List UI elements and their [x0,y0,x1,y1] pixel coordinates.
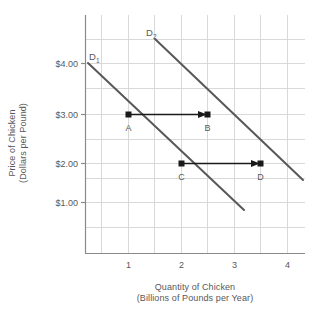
y-tick-label: $4.00 [55,59,78,69]
y-tick-label: $2.00 [55,159,78,169]
demand-curve-d2 [155,39,303,180]
data-point-label-d: D [257,172,264,182]
x-tick-label: 4 [285,260,290,270]
data-point-labels: A B C D [125,123,264,182]
data-point-a [126,112,132,118]
demand-curve-d1 [88,63,244,210]
x-axis-title: Quantity of Chicken (Billions of Pounds … [85,282,305,304]
curve-labels: D1 D2 [89,27,157,64]
data-point-b [205,112,211,118]
curve-label-d2: D2 [146,27,157,40]
x-axis-title-sub: (Billions of Pounds per Year) [85,293,305,304]
demand-shift-chart: $4.00 $3.00 $2.00 $1.00 1 2 3 4 [0,0,314,318]
x-tick-label: 3 [232,260,237,270]
axis-lines [85,15,305,254]
data-point-label-b: B [204,123,210,133]
data-point-label-c: C [178,172,185,182]
curve-label-d2-subscript: 2 [153,33,157,40]
data-point-c [179,161,185,167]
y-tick-marks [81,64,86,203]
y-axis-title: Price of Chicken (Dollars per Pound) [7,78,29,208]
data-point-label-a: A [125,123,131,133]
curve-label-d1: D1 [89,51,100,64]
x-tick-label: 2 [179,260,184,270]
grid-horizontal [85,40,305,228]
arrow-c-to-d [182,160,260,167]
curve-label-d1-subscript: 1 [96,57,100,64]
grid-vertical [102,15,288,253]
y-tick-label: $3.00 [55,110,78,120]
y-axis-title-main: Price of Chicken [7,78,18,208]
chart-figure: $4.00 $3.00 $2.00 $1.00 1 2 3 4 [0,0,314,318]
data-point-d [258,161,264,167]
y-axis-title-sub: (Dollars per Pound) [18,78,29,208]
x-tick-label: 1 [126,260,131,270]
x-tick-labels: 1 2 3 4 [126,260,290,270]
x-axis-title-main: Quantity of Chicken [85,282,305,293]
y-tick-label: $1.00 [55,198,78,208]
y-tick-labels: $4.00 $3.00 $2.00 $1.00 [55,59,78,208]
